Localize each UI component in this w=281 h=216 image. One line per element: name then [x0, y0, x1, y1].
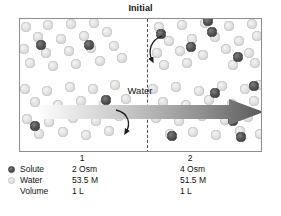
solute-molecule — [203, 18, 212, 26]
water-molecule — [41, 48, 50, 57]
water-molecule — [44, 117, 53, 126]
solute-molecule — [228, 116, 237, 125]
solute-molecule — [210, 88, 219, 97]
solute-molecule — [233, 52, 242, 61]
water-molecule — [48, 61, 57, 70]
water-molecule — [88, 84, 97, 93]
water-molecule — [177, 20, 186, 29]
water-molecule — [158, 97, 167, 106]
solute-dot-icon — [8, 166, 15, 173]
solute-value-compartment-1: 2 Osm — [72, 164, 132, 174]
volume-value-compartment-2: 1 L — [180, 186, 240, 196]
solute-molecule — [30, 121, 39, 130]
water-molecule — [188, 127, 197, 136]
water-molecule — [164, 36, 173, 45]
water-flow-label: Water — [110, 85, 170, 96]
water-molecule — [43, 20, 52, 29]
water-molecule — [228, 60, 237, 69]
solute-molecule — [167, 131, 176, 140]
volume-value-compartment-1: 1 L — [72, 186, 132, 196]
water-molecule — [56, 34, 65, 43]
water-molecule — [243, 112, 252, 121]
solute-molecule — [207, 27, 216, 36]
water-molecule — [152, 48, 161, 57]
water-molecule — [181, 100, 190, 109]
water-molecule — [102, 27, 111, 36]
water-molecule — [89, 18, 98, 27]
water-molecule — [240, 84, 249, 93]
solute-molecule — [84, 40, 93, 49]
water-molecule — [81, 130, 90, 139]
water-molecule — [109, 41, 118, 50]
water-molecule — [91, 116, 100, 125]
water-molecule — [194, 86, 203, 95]
legend-label-volume: Volume — [20, 186, 66, 196]
solute-molecule — [36, 40, 45, 49]
water-molecule — [234, 36, 243, 45]
water-molecule — [252, 31, 261, 40]
water-molecule — [76, 96, 85, 105]
water-molecule — [175, 46, 184, 55]
water-value-compartment-2: 51.5 M — [180, 175, 240, 185]
water-dot-icon — [8, 177, 15, 184]
legend-row-water: Water 53.5 M 51.5 M — [0, 175, 281, 186]
water-molecule — [71, 59, 80, 68]
water-molecule — [171, 82, 180, 91]
water-molecule — [42, 86, 51, 95]
water-molecule — [151, 113, 160, 122]
water-molecule — [174, 116, 183, 125]
water-molecule — [159, 60, 168, 69]
water-value-compartment-1: 53.5 M — [72, 175, 132, 185]
solute-value-compartment-2: 4 Osm — [180, 164, 240, 174]
water-molecule — [95, 56, 104, 65]
legend-row-volume: Volume 1 L 1 L — [0, 186, 281, 197]
water-molecule — [104, 126, 113, 135]
water-molecule — [227, 99, 236, 108]
water-molecule — [58, 127, 67, 136]
water-molecule — [53, 100, 62, 109]
water-molecule — [66, 19, 75, 28]
water-molecule — [211, 130, 220, 139]
water-molecule — [34, 129, 43, 138]
water-molecule — [198, 50, 207, 59]
legend-row-solute: Solute 2 Osm 4 Osm — [0, 164, 281, 175]
water-molecule — [21, 22, 30, 31]
water-molecule — [65, 82, 74, 91]
water-molecule — [114, 111, 123, 120]
solute-molecule — [186, 42, 195, 51]
water-molecule — [250, 58, 259, 67]
water-molecule — [249, 96, 258, 105]
water-molecule — [68, 113, 77, 122]
solute-molecule — [236, 132, 245, 141]
water-molecule — [197, 111, 206, 120]
water-molecule — [255, 129, 262, 138]
water-molecule — [20, 84, 29, 93]
solute-molecule — [101, 95, 110, 104]
osmosis-diagram: Initial Water 1 — [0, 0, 281, 216]
figure-title: Initial — [0, 3, 281, 13]
solute-molecule — [156, 29, 165, 38]
water-molecule — [79, 31, 88, 40]
legend-label-water: Water — [20, 175, 66, 185]
water-molecule — [247, 19, 256, 28]
water-molecule — [30, 97, 39, 106]
water-molecule — [244, 48, 253, 57]
water-molecule — [117, 53, 126, 62]
water-molecule — [64, 46, 73, 55]
column-header-1: 1 — [52, 153, 112, 163]
column-header-2: 2 — [160, 153, 220, 163]
water-molecule — [19, 44, 28, 53]
water-molecule — [182, 58, 191, 67]
legend-label-solute: Solute — [20, 164, 66, 174]
water-molecule — [221, 44, 230, 53]
solute-molecule — [249, 81, 258, 90]
water-molecule — [25, 58, 34, 67]
water-molecule — [224, 21, 233, 30]
